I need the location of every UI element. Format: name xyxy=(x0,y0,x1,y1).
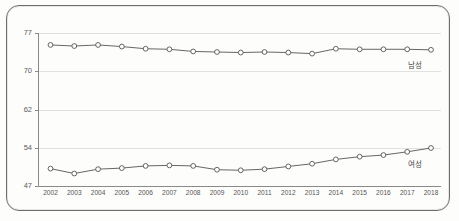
data-point-marker xyxy=(238,50,243,55)
data-point-marker xyxy=(429,47,434,52)
data-point-marker xyxy=(381,153,386,158)
data-point-marker xyxy=(215,50,220,55)
y-axis-ticks xyxy=(35,34,39,187)
x-axis-tick-label: 2011 xyxy=(253,189,277,196)
y-axis-tick-label: 47 xyxy=(14,181,32,190)
data-point-marker xyxy=(357,47,362,52)
data-point-marker xyxy=(48,166,53,171)
x-axis-tick-label: 2018 xyxy=(419,189,443,196)
data-point-marker xyxy=(286,50,291,55)
x-axis-tick-label: 2002 xyxy=(39,189,63,196)
series-female xyxy=(48,146,433,176)
x-axis-tick-label: 2013 xyxy=(300,189,324,196)
y-axis-tick-label: 62 xyxy=(14,105,32,114)
x-axis-tick-label: 2009 xyxy=(205,189,229,196)
data-point-marker xyxy=(96,167,101,172)
chart-plot-svg xyxy=(0,0,459,221)
data-point-marker xyxy=(119,44,124,49)
series-label-female: 여성 xyxy=(408,158,422,169)
x-axis-tick-label: 2005 xyxy=(110,189,134,196)
x-axis-tick-label: 2004 xyxy=(86,189,110,196)
data-point-marker xyxy=(333,46,338,51)
x-axis-tick-label: 2010 xyxy=(229,189,253,196)
data-point-marker xyxy=(357,154,362,159)
x-axis-tick-label: 2014 xyxy=(324,189,348,196)
line-chart: 7770625447 20022003200420052006200720082… xyxy=(0,0,459,221)
data-point-marker xyxy=(262,50,267,55)
data-point-marker xyxy=(119,166,124,171)
data-point-marker xyxy=(191,49,196,54)
x-axis-tick-label: 2012 xyxy=(276,189,300,196)
data-point-marker xyxy=(143,46,148,51)
data-point-marker xyxy=(143,164,148,169)
x-axis-tick-label: 2007 xyxy=(157,189,181,196)
data-point-marker xyxy=(286,164,291,169)
data-point-marker xyxy=(333,157,338,162)
data-point-marker xyxy=(48,43,53,48)
data-point-marker xyxy=(405,149,410,154)
data-point-marker xyxy=(167,163,172,168)
x-axis-tick-label: 2015 xyxy=(348,189,372,196)
series-male xyxy=(48,43,433,56)
y-axis-tick-label: 70 xyxy=(14,66,32,75)
data-point-marker xyxy=(96,43,101,48)
series-label-male: 남성 xyxy=(408,59,422,70)
data-point-marker xyxy=(429,146,434,151)
x-axis-tick-label: 2017 xyxy=(395,189,419,196)
data-point-marker xyxy=(381,47,386,52)
chart-screenshot: 7770625447 20022003200420052006200720082… xyxy=(0,0,459,221)
x-axis-tick-label: 2006 xyxy=(134,189,158,196)
data-point-marker xyxy=(310,51,315,56)
data-point-marker xyxy=(72,44,77,49)
x-axis-tick-label: 2008 xyxy=(181,189,205,196)
data-point-marker xyxy=(191,164,196,169)
data-point-marker xyxy=(167,47,172,52)
data-point-marker xyxy=(310,161,315,166)
y-axis-tick-label: 54 xyxy=(14,143,32,152)
x-axis-tick-label: 2003 xyxy=(62,189,86,196)
data-point-marker xyxy=(238,168,243,173)
gridlines xyxy=(39,34,442,187)
data-point-marker xyxy=(405,47,410,52)
data-point-marker xyxy=(215,167,220,172)
x-axis-tick-label: 2016 xyxy=(371,189,395,196)
data-point-marker xyxy=(262,167,267,172)
y-axis-tick-label: 77 xyxy=(14,28,32,37)
data-point-marker xyxy=(72,171,77,176)
